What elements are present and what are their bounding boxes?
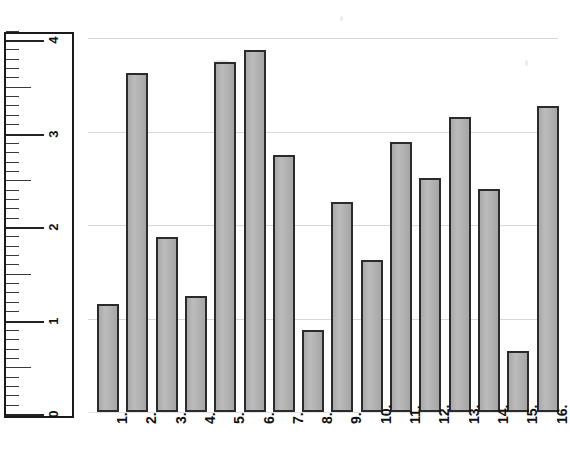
y-axis-minor-tick <box>6 255 19 256</box>
y-axis-major-tick <box>6 227 44 229</box>
y-axis-minor-tick <box>6 367 31 368</box>
x-axis-tick-label: 1. <box>114 412 130 424</box>
y-axis-minor-tick <box>6 283 19 284</box>
y-axis-minor-tick <box>6 190 19 191</box>
y-axis-minor-tick <box>6 358 19 359</box>
bar <box>449 117 471 412</box>
y-axis-minor-tick <box>6 377 19 378</box>
y-axis-minor-tick <box>6 115 19 116</box>
bar <box>156 237 178 412</box>
bar <box>478 189 500 412</box>
y-axis-minor-tick <box>6 124 19 125</box>
y-axis-tick-label: 1 <box>45 311 63 331</box>
y-axis-major-tick <box>6 134 44 136</box>
bar <box>244 50 266 412</box>
bar <box>390 142 412 412</box>
plot-area: 1.2.3.4.5.6.7.8.9.10.11.12.13.14.15.16. <box>88 0 558 457</box>
bar <box>214 62 236 412</box>
x-axis-tick-label: 10. <box>378 405 394 424</box>
bar <box>331 202 353 412</box>
y-axis-minor-tick <box>6 218 19 219</box>
x-axis-tick-label: 5. <box>231 412 247 424</box>
y-axis-minor-tick <box>6 292 19 293</box>
x-axis-tick-label: 9. <box>348 412 364 424</box>
y-axis-minor-tick <box>6 264 19 265</box>
x-axis-tick-label: 8. <box>319 412 335 424</box>
bar <box>507 351 529 412</box>
y-axis-minor-tick <box>6 274 31 275</box>
bar <box>97 304 119 412</box>
bar <box>361 260 383 412</box>
gridline <box>88 38 558 39</box>
y-axis-minor-tick <box>6 152 19 153</box>
x-axis-tick-label: 16. <box>554 405 570 424</box>
y-axis-minor-tick <box>6 180 31 181</box>
y-axis-minor-tick <box>6 162 19 163</box>
y-axis-minor-tick <box>6 311 19 312</box>
bar <box>273 155 295 412</box>
y-axis-tick-label: 0 <box>45 404 63 424</box>
bar <box>126 73 148 412</box>
x-axis-tick-label: 4. <box>202 412 218 424</box>
gridline <box>88 132 558 133</box>
x-axis-tick-label: 11. <box>407 405 423 424</box>
y-axis-minor-tick <box>6 330 19 331</box>
y-axis-major-tick <box>6 40 44 42</box>
bar <box>302 330 324 412</box>
y-axis-minor-tick <box>6 105 19 106</box>
y-axis-minor-tick <box>6 386 19 387</box>
x-axis-tick-label: 15. <box>524 405 540 424</box>
y-axis-minor-tick <box>6 302 19 303</box>
x-axis-tick-label: 2. <box>143 412 159 424</box>
y-axis-minor-tick <box>6 87 31 88</box>
y-axis-minor-tick <box>6 246 19 247</box>
y-axis-ruler: 01234 <box>4 32 74 418</box>
y-axis-tick-label: 2 <box>45 217 63 237</box>
y-axis-minor-tick <box>6 208 19 209</box>
y-axis-tick-label: 3 <box>45 124 63 144</box>
y-axis-minor-tick <box>6 77 19 78</box>
bar <box>537 106 559 412</box>
x-axis-tick-label: 12. <box>436 405 452 424</box>
x-axis-tick-label: 3. <box>173 412 189 424</box>
y-axis-minor-tick <box>6 339 19 340</box>
y-axis-minor-tick <box>6 199 19 200</box>
y-axis-minor-tick <box>6 143 19 144</box>
y-axis-minor-tick <box>6 49 19 50</box>
y-axis-minor-tick <box>6 31 19 32</box>
y-axis-minor-tick <box>6 59 19 60</box>
x-axis-tick-label: 14. <box>495 405 511 424</box>
y-axis-minor-tick <box>6 96 19 97</box>
x-axis-tick-label: 7. <box>290 412 306 424</box>
y-axis-minor-tick <box>6 236 19 237</box>
x-axis-tick-label: 6. <box>261 412 277 424</box>
y-axis-minor-tick <box>6 349 19 350</box>
y-axis-minor-tick <box>6 171 19 172</box>
bar <box>419 178 441 412</box>
bar <box>185 296 207 412</box>
y-axis-minor-tick <box>6 395 19 396</box>
y-axis-tick-label: 4 <box>45 30 63 50</box>
x-axis-tick-label: 13. <box>466 405 482 424</box>
y-axis-major-tick <box>6 414 44 416</box>
y-axis-minor-tick <box>6 68 19 69</box>
y-axis-major-tick <box>6 321 44 323</box>
y-axis-minor-tick <box>6 405 19 406</box>
